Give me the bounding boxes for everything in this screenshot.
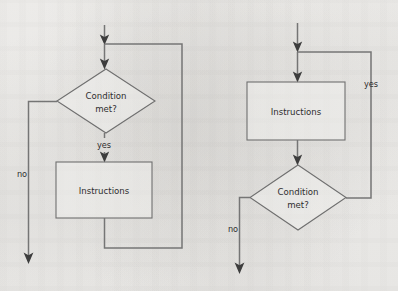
- left-process-label: Instructions: [79, 186, 130, 196]
- right-no-line: [240, 198, 251, 267]
- edge-right-process-to-decision: [293, 140, 302, 166]
- edge-right-entry: [293, 23, 302, 53]
- left-yes-label: yes: [97, 140, 111, 150]
- left-no-label: no: [17, 169, 27, 179]
- right-decision-label-line1: Condition: [277, 187, 318, 197]
- left-decision-diamond: [57, 69, 155, 133]
- right-decision-label-line2: met?: [287, 200, 309, 210]
- flowchart-page: Condition met? no yes Instructions: [0, 0, 398, 291]
- right-process-label: Instructions: [271, 107, 322, 117]
- chart-do-while-loop: yes Instructions Condition met?: [228, 23, 378, 274]
- left-decision-label-line2: met?: [95, 104, 117, 114]
- chart-while-loop: Condition met? no yes Instructions: [17, 25, 182, 264]
- left-decision-label-line1: Condition: [85, 91, 126, 101]
- edge-right-no-branch: [235, 198, 250, 275]
- edge-left-no-branch: [24, 102, 57, 265]
- edge-left-entry: [100, 25, 109, 45]
- edge-right-merge-to-process: [293, 52, 302, 83]
- flowchart-canvas: Condition met? no yes Instructions: [0, 0, 398, 291]
- edge-left-merge-to-decision: [100, 44, 109, 70]
- left-no-line: [29, 102, 58, 257]
- right-yes-label: yes: [364, 79, 378, 89]
- right-decision-diamond: [250, 165, 346, 230]
- right-no-label: no: [228, 224, 238, 234]
